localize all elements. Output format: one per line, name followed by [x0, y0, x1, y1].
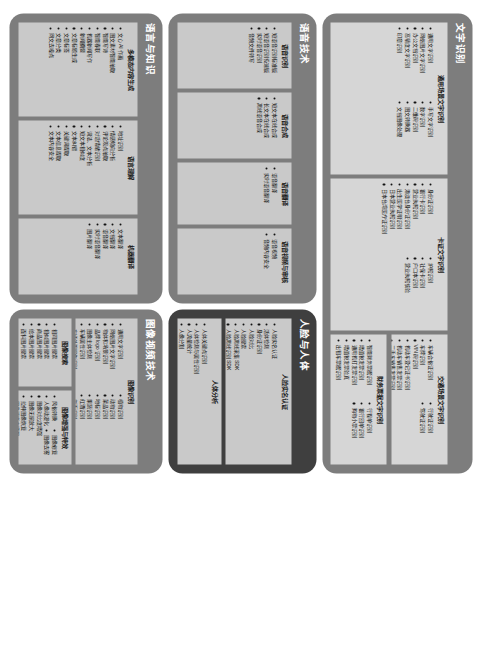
card-ocr-traffic[interactable]: 交通场景文字识别车辆合格证识别车牌识别VIN 码识别机动车登记证书识别机动车销售…: [391, 334, 447, 464]
list-item[interactable]: 评论观点抽取: [100, 125, 108, 209]
list-item[interactable]: 通用机打发票识别: [349, 339, 357, 396]
list-item[interactable]: 银行回单识别: [357, 402, 365, 459]
list-item[interactable]: 购物小票识别: [349, 402, 357, 459]
list-item[interactable]: 智能春联: [92, 27, 100, 111]
list-item[interactable]: 长文本在线合成: [262, 97, 270, 153]
card-ocr-finance[interactable]: 财务票据文字识别智能财务票据识别增值税发票识别通用机打发票识别增值税发票验真出租…: [330, 334, 386, 464]
list-item[interactable]: 日本营业执照识别: [387, 183, 395, 251]
list-item[interactable]: 情感倾向分析: [108, 125, 116, 209]
card-nlp-translate[interactable]: 机器翻译文本翻译文档翻译语音翻译实时语音翻译图片翻译: [18, 218, 137, 294]
list-item[interactable]: 词法、文本分析: [85, 125, 93, 209]
list-item[interactable]: 增值税发票识别: [357, 339, 365, 396]
list-item[interactable]: 数字识别: [418, 101, 426, 169]
list-item[interactable]: 行驶证识别: [425, 402, 433, 459]
list-item[interactable]: 文章标签: [61, 27, 69, 111]
list-item[interactable]: 实时语音翻译: [92, 223, 100, 289]
list-item[interactable]: 文本内容安全: [46, 125, 54, 209]
list-item[interactable]: 图像去雾: [42, 429, 50, 459]
list-item[interactable]: 语音翻译: [269, 167, 277, 219]
list-item[interactable]: 营业执照核验: [402, 257, 410, 325]
list-item[interactable]: 地址识别: [115, 125, 123, 209]
card-face-auth[interactable]: 人脸实名认证人脸实名认证活体检测身份证识别人脸对比人脸搜索人脸离线采集 SDK人…: [225, 318, 291, 464]
card-image-recognition[interactable]: 图像识别通用文字识别网络图片文字识别物体和场景识别品牌 logo 识别图像主体检…: [75, 318, 137, 464]
list-item[interactable]: 图像修复: [49, 429, 57, 459]
list-item[interactable]: 智能写诗: [100, 27, 108, 111]
list-item[interactable]: 户口本识别: [410, 257, 418, 325]
list-item[interactable]: 护照识别: [425, 257, 433, 325]
list-item[interactable]: 通用文字识别: [115, 323, 123, 389]
list-item[interactable]: 车辆外观损伤识别: [75, 323, 77, 389]
list-item[interactable]: 文本翻译: [115, 223, 123, 289]
list-item[interactable]: 二手车销售发票识别: [391, 339, 395, 396]
list-item[interactable]: 语音翻译: [100, 223, 108, 289]
list-item[interactable]: 人体关键点识别: [199, 323, 207, 459]
list-item[interactable]: 人脸搜索: [239, 323, 247, 459]
list-item[interactable]: 人像动漫化: [42, 395, 50, 425]
card-speech-audit[interactable]: 语音视频与审核语音视频音频内容安全: [177, 228, 291, 294]
list-item[interactable]: 植物识别: [115, 394, 123, 460]
card-nlp-content[interactable]: 多模态内容生成文心 AI 作画图文素材智能抽取智能写诗智能春联机器新闻写作新闻摘…: [18, 22, 137, 116]
list-item[interactable]: 日本台湾医疗证识别: [379, 183, 387, 251]
list-item[interactable]: 网文去噪点: [46, 27, 54, 111]
list-item[interactable]: 短文本相似度: [77, 125, 85, 209]
list-item[interactable]: 拉伸图像恢复: [19, 395, 27, 425]
list-item[interactable]: 港澳台身份证识别: [402, 183, 410, 251]
list-item[interactable]: 风格转换: [49, 395, 57, 425]
list-item[interactable]: 面料图片搜索: [19, 323, 27, 381]
list-item[interactable]: 货币识别: [75, 394, 77, 460]
card-ocr-card[interactable]: 卡证文字识别身份证识别银行卡识别营业执照识别港澳台身份证识别出生医学证明识别日本…: [330, 178, 447, 330]
list-item[interactable]: 办公文档识别: [410, 27, 418, 95]
list-item[interactable]: 二维码识别: [410, 101, 418, 169]
list-item[interactable]: 短语音识别标准版: [269, 27, 277, 83]
list-item[interactable]: 图片翻译: [85, 223, 93, 289]
list-item[interactable]: 动物识别: [108, 394, 116, 460]
card-image-search[interactable]: 图像搜索相同图片搜索相似图片搜索商品图片搜索绘本图片搜索面料图片搜索: [18, 318, 71, 386]
list-item[interactable]: 相似图片搜索: [42, 323, 50, 381]
card-speech-synthesis[interactable]: 语音合成短文本在线合成长文本在线合成离线语音合成: [177, 92, 291, 158]
list-item[interactable]: 相同图片搜索: [49, 323, 57, 381]
list-item[interactable]: 离线语音合成: [254, 97, 262, 153]
list-item[interactable]: VIN 码识别: [410, 339, 418, 396]
card-body-analysis[interactable]: 人体分析人体关键点识别人体检测与属性识别人流量统计人像分割驾驶行为分析: [177, 318, 221, 464]
list-item[interactable]: 高精度文字识别: [402, 27, 410, 95]
list-item[interactable]: 活体检测: [262, 323, 270, 459]
list-item[interactable]: 机动车销售发票识别: [395, 339, 403, 396]
list-item[interactable]: 机器新闻写作: [85, 27, 93, 111]
list-item[interactable]: 文档翻译: [108, 223, 116, 289]
list-item[interactable]: 驾驶证识别: [418, 402, 426, 459]
list-item[interactable]: 人体检测与属性识别: [192, 323, 200, 459]
list-item[interactable]: 出租车票据识别: [334, 339, 342, 396]
list-item[interactable]: 营业执照识别: [410, 183, 418, 251]
list-item[interactable]: 图像主体检测: [85, 323, 93, 389]
card-speech-translate[interactable]: 语音翻译语音翻译实时语音翻译: [177, 162, 291, 224]
list-item[interactable]: 人像分割: [177, 323, 184, 459]
list-item[interactable]: 人流量统计: [184, 323, 192, 459]
list-item[interactable]: 文章分类: [54, 27, 62, 111]
list-item[interactable]: 实时语音识别: [254, 27, 262, 83]
list-item[interactable]: 文章标题生成: [69, 27, 77, 111]
list-item[interactable]: 音频文件转写: [246, 27, 254, 83]
list-item[interactable]: 音频内容安全: [262, 233, 270, 289]
list-item[interactable]: 文本纠错: [69, 125, 77, 209]
list-item[interactable]: 地标识别: [92, 394, 100, 460]
list-item[interactable]: 文档图像处理: [395, 101, 403, 169]
list-item[interactable]: 图像清晰度增强: [18, 395, 19, 425]
list-item[interactable]: 短语音识别极速版: [262, 27, 270, 83]
card-nlp-understand[interactable]: 语言理解地址识别情感倾向分析评论观点抽取对话情绪识别词法、文本分析短文本相似度文…: [18, 120, 137, 214]
list-item[interactable]: 绘本图片搜索: [26, 323, 34, 381]
list-item[interactable]: 网络图片文字识别: [108, 323, 116, 389]
list-item[interactable]: 出生医学证明识别: [395, 183, 403, 251]
list-item[interactable]: 文本信息提取: [54, 125, 62, 209]
list-item[interactable]: 银行卡识别: [418, 183, 426, 251]
list-item[interactable]: 新闻摘要: [77, 27, 85, 111]
list-item[interactable]: 人脸离线识别 SDK: [225, 323, 231, 459]
list-item[interactable]: 关键词提取: [61, 125, 69, 209]
list-item[interactable]: 物体和场景识别: [100, 323, 108, 389]
list-item[interactable]: 红酒识别: [77, 394, 85, 460]
list-item[interactable]: 人脸实名认证: [269, 323, 277, 459]
list-item[interactable]: 行程单识别: [364, 402, 372, 459]
list-item[interactable]: 车辆合格证识别: [425, 339, 433, 396]
list-item[interactable]: 人脸对比: [246, 323, 254, 459]
list-item[interactable]: 语音视频: [269, 233, 277, 289]
list-item[interactable]: 社保卡识别: [418, 257, 426, 325]
